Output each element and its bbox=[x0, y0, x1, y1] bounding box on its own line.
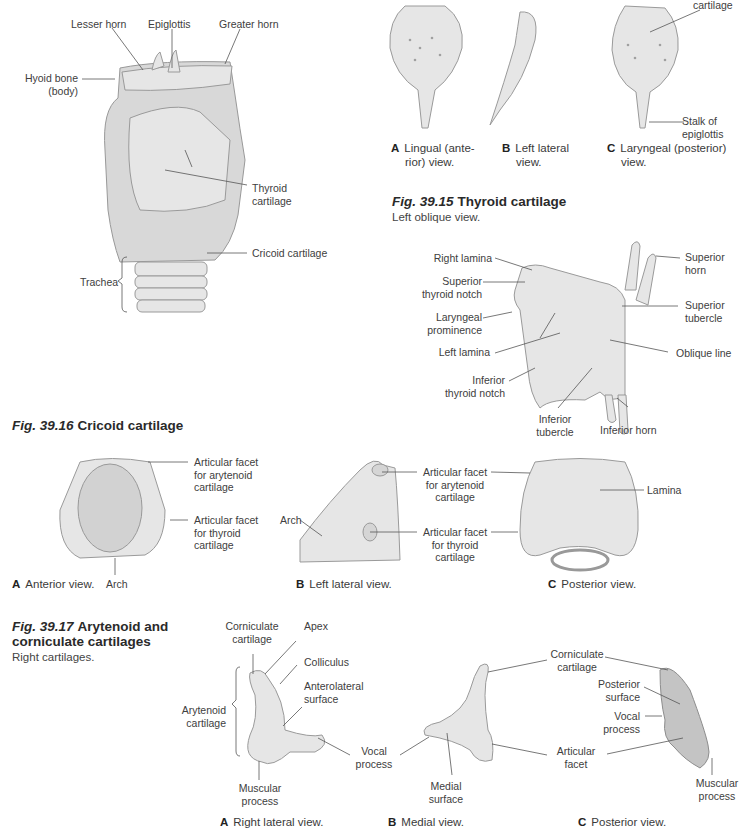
caption-epiglottis-c: CLaryngeal (posterior) view. bbox=[607, 141, 726, 169]
caption-letter: A bbox=[12, 578, 20, 590]
label-line: thyroid notch bbox=[410, 288, 482, 301]
label-cricoid-b-facet-arytenoid: Articular facet for arytenoid cartilage bbox=[418, 466, 492, 504]
label-lesser-horn: Lesser horn bbox=[71, 18, 126, 31]
label-line: Articular bbox=[548, 745, 604, 758]
caption-cricoid-b: BLeft lateral view. bbox=[296, 577, 392, 591]
fig-39-15-subtitle: Left oblique view. bbox=[392, 211, 480, 223]
caption-text: Anterior view. bbox=[25, 578, 94, 590]
label-a-anterolateral-surface: Anterolateral surface bbox=[304, 680, 364, 705]
label-line: Posterior bbox=[588, 678, 640, 691]
label-line: Vocal bbox=[352, 745, 396, 758]
caption-arytenoid-a: ARight lateral view. bbox=[220, 815, 323, 829]
label-line: cartilage bbox=[222, 633, 282, 646]
label-a-corniculate-cartilage: Corniculate cartilage bbox=[222, 620, 282, 645]
label-hyoid-bone: Hyoid bone (body) bbox=[22, 72, 78, 97]
label-line: cartilage bbox=[418, 491, 492, 504]
caption-letter: C bbox=[578, 816, 586, 828]
label-bc-articular-facet: Articular facet bbox=[548, 745, 604, 770]
label-line: Anterolateral bbox=[304, 680, 364, 693]
label-line: surface bbox=[304, 693, 364, 706]
caption-cricoid-a: AAnterior view. bbox=[12, 577, 94, 591]
figure-number: Fig. 39.17 bbox=[12, 619, 74, 634]
label-line: tubercle bbox=[525, 426, 585, 439]
label-line: Inferior bbox=[430, 374, 505, 387]
label-line: cartilage bbox=[252, 195, 292, 208]
label-line: surface bbox=[588, 691, 640, 704]
label-line: Corniculate bbox=[546, 648, 608, 661]
label-line: Superior bbox=[410, 275, 482, 288]
label-line: cartilage bbox=[418, 551, 492, 564]
label-line: Superior bbox=[685, 251, 725, 264]
label-line: process bbox=[352, 758, 396, 771]
label-epiglottic-cartilage: cartilage bbox=[693, 0, 733, 12]
thyroid-cartilage-drawing bbox=[514, 242, 656, 434]
label-cricoid-a-arch: Arch bbox=[106, 578, 128, 591]
caption-arytenoid-b: BMedial view. bbox=[388, 815, 464, 829]
label-line: process bbox=[588, 723, 640, 736]
caption-text: rior) view. bbox=[405, 156, 454, 168]
label-superior-horn: Superior horn bbox=[685, 251, 725, 276]
label-line: Thyroid bbox=[252, 182, 292, 195]
label-line: Articular facet bbox=[418, 466, 492, 479]
label-line: thyroid notch bbox=[430, 387, 505, 400]
label-a-apex: Apex bbox=[304, 620, 328, 633]
caption-text: Left lateral bbox=[515, 142, 569, 154]
label-line: Laryngeal bbox=[410, 311, 482, 324]
label-right-lamina: Right lamina bbox=[420, 252, 492, 265]
label-laryngeal-prominence: Laryngeal prominence bbox=[410, 311, 482, 336]
caption-letter: C bbox=[607, 142, 615, 154]
epiglottis-drawings bbox=[390, 6, 678, 128]
label-a-arytenoid-cartilage: Arytenoid cartilage bbox=[170, 704, 226, 729]
label-cricoid-b-arch: Arch bbox=[280, 514, 302, 527]
caption-text: Right lateral view. bbox=[233, 816, 323, 828]
label-cricoid-cartilage: Cricoid cartilage bbox=[252, 247, 327, 260]
figure-title-text: Cricoid cartilage bbox=[78, 418, 184, 433]
label-stalk-of-epiglottis: Stalk of epiglottis bbox=[682, 115, 723, 140]
label-a-muscular-process: Muscular process bbox=[234, 782, 286, 807]
figure-title-text: Arytenoid and bbox=[78, 619, 169, 634]
label-line: Muscular bbox=[234, 782, 286, 795]
label-left-lamina: Left lamina bbox=[420, 346, 490, 359]
figure-title-text: corniculate cartilages bbox=[12, 634, 168, 649]
caption-letter: A bbox=[220, 816, 228, 828]
label-line: for thyroid bbox=[194, 527, 258, 540]
label-cricoid-c-lamina: Lamina bbox=[647, 484, 681, 497]
cricoid-drawings bbox=[60, 459, 638, 571]
label-line: for thyroid bbox=[418, 539, 492, 552]
label-line: Inferior bbox=[525, 413, 585, 426]
label-line: Stalk of bbox=[682, 115, 723, 128]
caption-cricoid-c: CPosterior view. bbox=[548, 577, 636, 591]
label-line: prominence bbox=[410, 324, 482, 337]
label-line: Superior bbox=[685, 299, 725, 312]
label-line: cartilage bbox=[546, 661, 608, 674]
label-line: horn bbox=[685, 264, 725, 277]
label-cricoid-a-facet-thyroid: Articular facet for thyroid cartilage bbox=[194, 514, 258, 552]
label-line: tubercle bbox=[685, 312, 725, 325]
caption-letter: B bbox=[388, 816, 396, 828]
label-cricoid-a-facet-arytenoid: Articular facet for arytenoid cartilage bbox=[194, 456, 258, 494]
caption-text: Left lateral view. bbox=[309, 578, 391, 590]
label-greater-horn: Greater horn bbox=[219, 18, 279, 31]
fig-39-15-title: Fig. 39.15Thyroid cartilage bbox=[392, 194, 566, 209]
label-b-medial-surface: Medial surface bbox=[424, 780, 468, 805]
label-line: cartilage bbox=[194, 539, 258, 552]
caption-letter: B bbox=[296, 578, 304, 590]
label-bc-corniculate-cartilage: Corniculate cartilage bbox=[546, 648, 608, 673]
fig-39-17-subtitle: Right cartilages. bbox=[12, 651, 94, 663]
label-line: Muscular bbox=[692, 777, 742, 790]
label-epiglottis: Epiglottis bbox=[148, 18, 191, 31]
label-c-muscular-process: Muscular process bbox=[692, 777, 742, 802]
label-line: Medial bbox=[424, 780, 468, 793]
caption-text: Posterior view. bbox=[561, 578, 636, 590]
caption-text: view. bbox=[516, 156, 542, 168]
label-line: process bbox=[692, 790, 742, 803]
fig-39-16-title: Fig. 39.16Cricoid cartilage bbox=[12, 418, 183, 433]
label-superior-tubercle: Superior tubercle bbox=[685, 299, 725, 324]
label-a-colliculus: Colliculus bbox=[304, 656, 349, 669]
label-line: Vocal bbox=[588, 710, 640, 723]
caption-epiglottis-b: BLeft lateral view. bbox=[502, 141, 569, 169]
label-line: Articular facet bbox=[418, 526, 492, 539]
label-thyroid-cartilage: Thyroid cartilage bbox=[252, 182, 292, 207]
caption-letter: B bbox=[502, 142, 510, 154]
